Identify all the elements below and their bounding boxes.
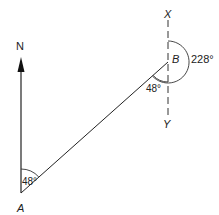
point-a-label: A (16, 202, 24, 214)
angle-arc-b-reflex (152, 41, 189, 83)
bearing-diagram: N A B X Y 48° 48° 228° (0, 0, 219, 215)
point-y-label: Y (163, 118, 171, 130)
angle-b-reflex-label: 228° (191, 53, 214, 65)
line-a-to-b (21, 62, 168, 193)
point-b-label: B (172, 53, 179, 65)
north-label: N (16, 40, 24, 52)
point-x-label: X (163, 8, 172, 20)
north-arrowhead (18, 57, 25, 72)
angle-a-label: 48° (22, 176, 37, 187)
angle-b-interior-label: 48° (146, 83, 161, 94)
